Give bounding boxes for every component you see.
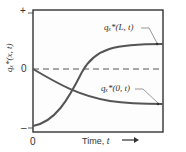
y-axis-label: qₓ*(x, t): [4, 43, 14, 72]
y-tick-label-minus: –: [21, 122, 27, 133]
curve-label-q0: qₓ*(0, t): [101, 83, 130, 93]
y-tick-label-plus: +: [20, 5, 26, 16]
chart: [0, 0, 186, 152]
curve-label-qL: qₓ*(L, t): [104, 22, 134, 32]
y-tick-label-zero: 0: [21, 63, 27, 74]
x-tick-label-zero: 0: [30, 136, 36, 147]
x-axis-label: Time, t: [82, 136, 109, 146]
